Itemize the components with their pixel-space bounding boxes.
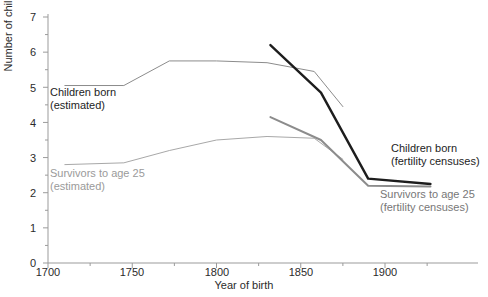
annotation-survivors-fertility-censuses: Survivors to age 25 (fertility censuses) <box>380 188 475 214</box>
annotation-line-2: (estimated) <box>50 180 145 193</box>
y-tick-label-1: 1 <box>8 222 36 234</box>
y-tick-label-2: 2 <box>8 187 36 199</box>
x-tick-label-1750: 1750 <box>108 266 156 278</box>
y-tick-label-3: 3 <box>8 152 36 164</box>
x-tick-label-1850: 1850 <box>277 266 325 278</box>
annotation-line-2: (fertility censuses) <box>380 201 475 214</box>
annotation-line-1: Children born <box>391 142 480 155</box>
annotation-children-born-estimated: Children born (estimated) <box>50 86 116 112</box>
x-tick-label-1700: 1700 <box>24 266 72 278</box>
x-tick-label-1800: 1800 <box>193 266 241 278</box>
annotation-line-1: Survivors to age 25 <box>50 167 145 180</box>
annotation-line-1: Children born <box>50 86 116 99</box>
y-tick-label-6: 6 <box>8 46 36 58</box>
annotation-line-2: (fertility censuses) <box>391 155 480 168</box>
annotation-line-1: Survivors to age 25 <box>380 188 475 201</box>
chart-container: Number of children Year of birth 0 1 2 3… <box>0 0 488 297</box>
y-tick-label-7: 7 <box>8 11 36 23</box>
x-axis-title: Year of birth <box>0 279 488 291</box>
annotation-line-2: (estimated) <box>50 99 116 112</box>
annotation-survivors-estimated: Survivors to age 25 (estimated) <box>50 167 145 193</box>
annotation-children-born-fertility-censuses: Children born (fertility censuses) <box>391 142 480 168</box>
y-tick-label-4: 4 <box>8 117 36 129</box>
series-line-1 <box>65 136 343 164</box>
x-tick-label-1900: 1900 <box>361 266 409 278</box>
y-tick-label-5: 5 <box>8 82 36 94</box>
